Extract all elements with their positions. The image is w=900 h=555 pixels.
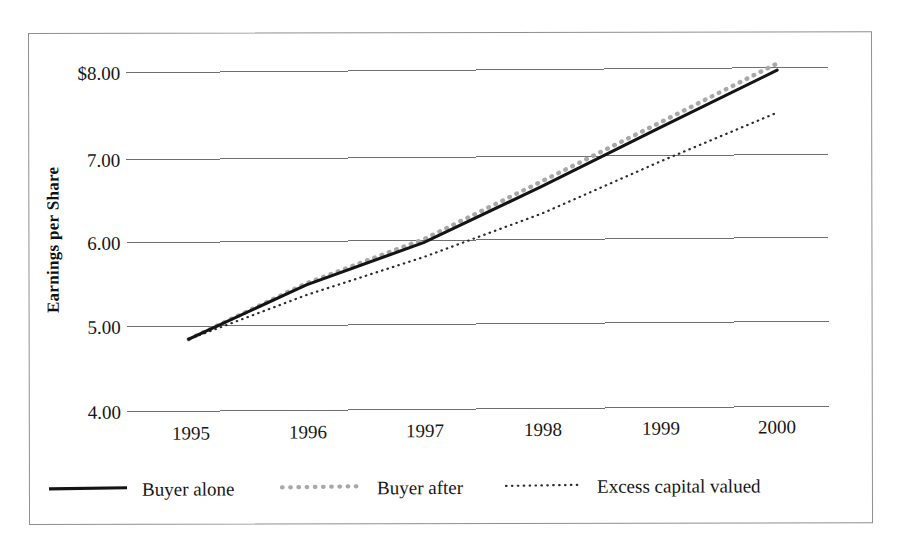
gridline-6.00: [127, 237, 829, 242]
series-buyer-alone: [188, 70, 778, 339]
series-group: [188, 63, 778, 339]
series-excess-capital-valued: [188, 113, 777, 340]
y-tick-label-6: 6.00: [87, 233, 120, 254]
y-axis-title: Earnings per Share: [43, 166, 62, 313]
x-tick-label-1999: 1999: [642, 418, 680, 439]
legend-swatch-buyer-alone: [49, 488, 127, 489]
line-chart: $8.00 7.00 6.00 5.00 4.00 Earnings per S…: [0, 0, 900, 555]
chart-legend: Buyer alone Buyer after Excess capital v…: [49, 475, 761, 499]
legend-label-buyer-alone: Buyer alone: [142, 479, 234, 500]
legend-label-buyer-after: Buyer after: [377, 477, 464, 498]
gridlines: [126, 67, 829, 411]
gridline-4.00: [127, 406, 829, 411]
gridline-7.00: [126, 154, 828, 159]
y-tick-label-4: 4.00: [88, 402, 121, 423]
x-axis-tick-labels: 1995 1996 1997 1998 1999 2000: [172, 416, 796, 443]
y-tick-label-8: $8.00: [77, 63, 120, 84]
legend-label-excess-capital-valued: Excess capital valued: [597, 475, 761, 496]
chart-figure: $8.00 7.00 6.00 5.00 4.00 Earnings per S…: [0, 0, 900, 555]
x-tick-label-2000: 2000: [758, 416, 796, 437]
y-tick-label-5: 5.00: [87, 317, 120, 338]
x-tick-label-1997: 1997: [406, 420, 444, 441]
x-tick-label-1996: 1996: [289, 421, 327, 442]
y-tick-label-7: 7.00: [87, 150, 120, 171]
x-tick-label-1998: 1998: [524, 419, 562, 440]
gridline-8.00: [126, 67, 828, 72]
x-tick-label-1995: 1995: [172, 423, 210, 444]
legend-swatch-buyer-after: [282, 486, 362, 487]
y-axis-tick-labels: $8.00 7.00 6.00 5.00 4.00: [77, 63, 121, 423]
legend-swatch-excess-capital-valued: [506, 485, 582, 486]
